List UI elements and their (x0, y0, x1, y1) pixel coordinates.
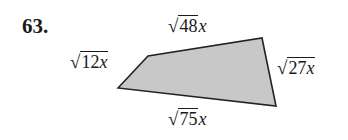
side-label-left: √12x (70, 51, 108, 71)
variable: x (198, 109, 206, 129)
variable: x (99, 52, 107, 72)
radical-sign: √ (168, 108, 178, 129)
side-label-top: √48x (168, 15, 206, 35)
variable: x (306, 58, 314, 78)
radicand: 75 (179, 109, 197, 129)
radical-sign: √ (277, 57, 287, 78)
radical-sign: √ (70, 51, 80, 72)
side-label-right: √27x (277, 57, 315, 77)
radicand: 48 (179, 16, 197, 36)
radical-sign: √ (168, 15, 178, 36)
radicand: 27 (288, 58, 306, 78)
variable: x (198, 16, 206, 36)
side-label-bottom: √75x (168, 108, 206, 128)
radicand: 12 (81, 52, 99, 72)
quadrilateral-shape (118, 38, 276, 106)
